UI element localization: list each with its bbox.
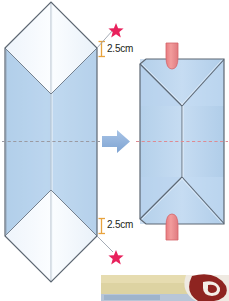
star-bottom-leader	[97, 236, 113, 252]
unfolded-paper-group	[2, 2, 100, 282]
photo-thumbnail	[101, 274, 229, 301]
star-icon-bottom	[108, 250, 123, 264]
measurement-label-top: 2.5cm	[107, 44, 133, 54]
tab-icon-top	[166, 43, 178, 69]
measurement-label-bottom: 2.5cm	[107, 220, 133, 230]
star-icon-top	[108, 23, 123, 37]
figure-canvas: 2.5cm 2.5cm	[0, 0, 229, 301]
tab-icon-bottom	[166, 214, 178, 240]
folded-envelope-group	[136, 43, 228, 240]
arrow-right-icon	[102, 130, 130, 153]
